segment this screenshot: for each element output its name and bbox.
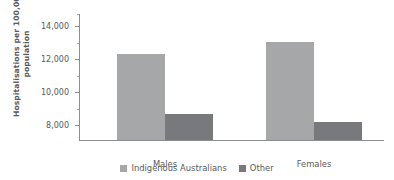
y-tick-label-14000: 14,000 — [41, 22, 69, 31]
chart-legend: Indigenous Australians Other — [0, 163, 394, 173]
bar-males-indigenous — [117, 54, 165, 140]
y-tick-label-10000: 10,000 — [41, 88, 69, 97]
plot-area: 14,000 12,000 10,000 8,000 Males Females — [79, 14, 384, 140]
bar-females-other — [314, 122, 362, 140]
legend-item-indigenous-australians: Indigenous Australians — [120, 163, 226, 173]
bar-males-other — [165, 114, 213, 140]
y-axis-line — [79, 14, 80, 140]
legend-item-other: Other — [239, 163, 274, 173]
legend-swatch-other — [239, 165, 246, 172]
y-tick-8000: 8,000 — [75, 125, 79, 126]
y-tick-minor-14500 — [77, 14, 80, 15]
y-tick-14000: 14,000 — [75, 26, 79, 27]
legend-label-indigenous-australians: Indigenous Australians — [131, 163, 226, 173]
y-tick-label-12000: 12,000 — [41, 55, 69, 64]
y-axis-title: Hospitalisations per 100,000 population — [12, 0, 32, 120]
y-tick-12000: 12,000 — [75, 59, 79, 60]
legend-swatch-indigenous-australians — [120, 165, 127, 172]
x-axis-baseline — [79, 140, 384, 141]
y-tick-minor-13000 — [77, 43, 80, 44]
bar-chart: Hospitalisations per 100,000 population … — [0, 0, 394, 180]
y-tick-minor-9000 — [77, 109, 80, 110]
y-axis-title-line-1: Hospitalisations per 100,000 — [12, 0, 22, 120]
y-tick-label-8000: 8,000 — [46, 121, 69, 130]
legend-label-other: Other — [250, 163, 274, 173]
y-axis-title-line-2: population — [22, 0, 32, 120]
y-tick-minor-11000 — [77, 76, 80, 77]
bar-females-indigenous — [266, 42, 314, 140]
y-tick-10000: 10,000 — [75, 92, 79, 93]
